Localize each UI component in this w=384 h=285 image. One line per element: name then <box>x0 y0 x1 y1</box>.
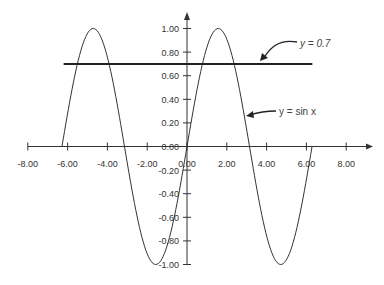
y-tick-label: 0.40 <box>161 95 179 105</box>
annotations: y = 0.7y = sin x <box>246 38 331 118</box>
y-tick-label: 0.20 <box>161 118 179 128</box>
y-tick-label: 0.60 <box>161 71 179 81</box>
x-tick-label: 4.00 <box>258 159 276 169</box>
y-tick-label: -0.40 <box>158 189 179 199</box>
x-tick-label: -4.00 <box>97 159 118 169</box>
y-tick-label: -0.20 <box>158 166 179 176</box>
x-tick-label: -6.00 <box>57 159 78 169</box>
x-tick-label: 6.00 <box>298 159 316 169</box>
annotation-label: y = sin x <box>279 106 316 117</box>
annotation-arrow-icon <box>250 111 276 115</box>
y-axis-arrow-icon <box>184 12 190 20</box>
x-axis-arrow-icon <box>366 144 373 150</box>
axes <box>28 12 373 265</box>
x-tick-label: -2.00 <box>137 159 158 169</box>
y-tick-label: 1.00 <box>161 24 179 34</box>
y-tick-label: -1.00 <box>158 260 179 270</box>
x-tick-label: 8.00 <box>337 159 355 169</box>
y-tick-label: -0.60 <box>158 213 179 223</box>
y-tick-label: 0.00 <box>161 142 179 152</box>
sine-chart: -8.00-6.00-4.00-2.000.002.004.006.008.00… <box>0 0 384 285</box>
annotation-arrow-icon <box>264 41 297 58</box>
x-tick-label: 2.00 <box>218 159 236 169</box>
y-tick-label: 0.80 <box>161 48 179 58</box>
arrowhead-icon <box>246 111 254 118</box>
annotation-label: y = 0.7 <box>299 38 331 49</box>
x-tick-label: 0.00 <box>178 159 196 169</box>
x-tick-label: -8.00 <box>18 159 39 169</box>
